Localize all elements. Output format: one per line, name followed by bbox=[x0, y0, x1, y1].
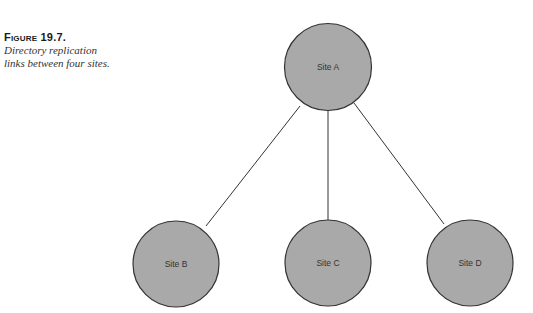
node-label-b: Site B bbox=[165, 259, 188, 269]
link-a-b bbox=[206, 106, 300, 226]
node-label-d: Site D bbox=[458, 258, 481, 268]
links bbox=[206, 103, 444, 226]
replication-diagram: Site A Site B Site C Site D bbox=[0, 0, 533, 313]
link-a-d bbox=[354, 103, 444, 224]
node-site-b: Site B bbox=[133, 221, 219, 307]
node-site-c: Site C bbox=[285, 220, 371, 306]
node-site-a: Site A bbox=[285, 24, 372, 111]
node-label-a: Site A bbox=[317, 62, 340, 72]
node-site-d: Site D bbox=[427, 220, 513, 306]
node-label-c: Site C bbox=[316, 258, 339, 268]
